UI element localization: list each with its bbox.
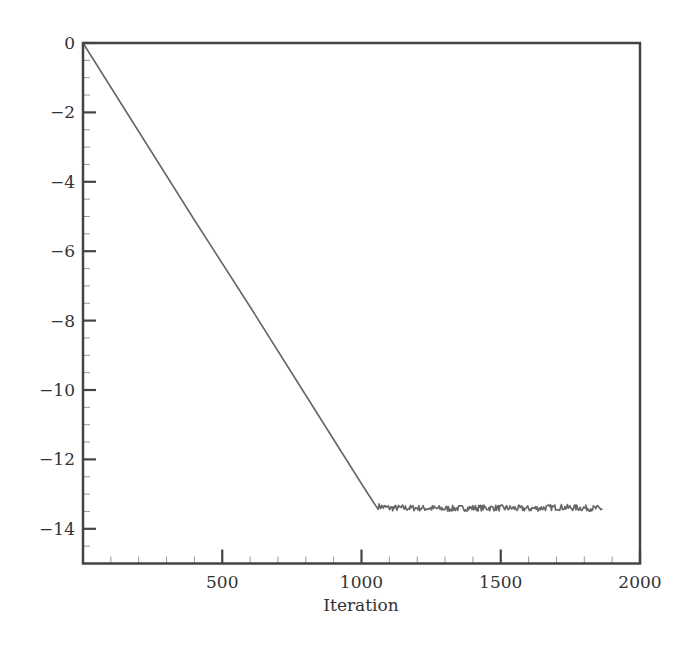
line-chart: 0−2−4−6−8−10−12−14 500100015002000 Itera… — [0, 0, 684, 647]
major-ticks — [83, 43, 640, 564]
x-tick-label: 500 — [206, 572, 238, 592]
plot-frame — [83, 43, 640, 564]
y-tick-label: −14 — [39, 519, 75, 539]
y-axis-tick-labels: 0−2−4−6−8−10−12−14 — [39, 33, 75, 539]
y-tick-label: −2 — [50, 102, 75, 122]
x-tick-label: 1500 — [479, 572, 522, 592]
y-tick-label: −8 — [50, 311, 75, 331]
y-tick-label: −12 — [39, 449, 75, 469]
x-tick-label: 1000 — [340, 572, 383, 592]
x-axis-title: Iteration — [323, 595, 398, 615]
x-tick-label: 2000 — [618, 572, 661, 592]
minor-ticks — [83, 60, 612, 563]
y-tick-label: −4 — [50, 172, 75, 192]
data-line — [83, 43, 602, 511]
x-axis-tick-labels: 500100015002000 — [206, 572, 662, 592]
y-tick-label: −6 — [50, 241, 75, 261]
y-tick-label: 0 — [64, 33, 75, 53]
y-tick-label: −10 — [39, 380, 75, 400]
